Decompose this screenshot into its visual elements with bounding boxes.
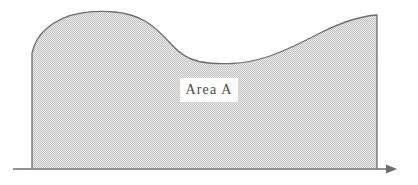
- figure-container: Area A: [0, 0, 418, 185]
- axis-arrowhead-icon: [386, 165, 397, 174]
- area-label-box: Area A: [180, 78, 238, 102]
- area-label-text: Area A: [185, 83, 232, 97]
